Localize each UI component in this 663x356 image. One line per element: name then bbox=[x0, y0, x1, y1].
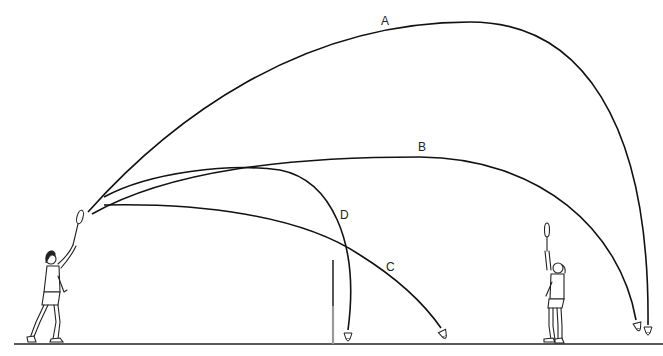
shuttlecock-c bbox=[438, 329, 449, 340]
badminton-diagram: A B C D bbox=[0, 0, 663, 356]
label-a: A bbox=[381, 14, 389, 28]
racket-icon bbox=[75, 209, 84, 224]
shuttlecock-d bbox=[344, 333, 352, 341]
racket-icon bbox=[545, 223, 550, 237]
label-d: D bbox=[340, 208, 349, 222]
player-left bbox=[27, 209, 85, 342]
player-right bbox=[544, 223, 565, 343]
shuttlecock-a bbox=[644, 327, 652, 335]
shuttlecock-b bbox=[633, 322, 643, 332]
label-b: B bbox=[418, 140, 426, 154]
label-c: C bbox=[386, 260, 395, 274]
